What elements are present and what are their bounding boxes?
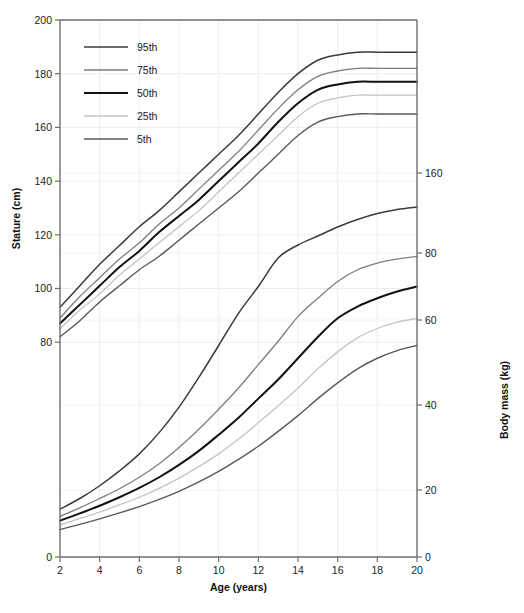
tick-label-right: 160 bbox=[425, 167, 443, 179]
tick-label-left: 140 bbox=[34, 175, 52, 187]
tick-label-right: 20 bbox=[425, 484, 437, 496]
tick-label-bottom: 2 bbox=[57, 564, 63, 576]
tick-label-right: 40 bbox=[425, 399, 437, 411]
tick-label-left: 0 bbox=[46, 551, 52, 563]
tick-label-left: 80 bbox=[40, 336, 52, 348]
tick-label-bottom: 10 bbox=[213, 564, 225, 576]
tick-label-bottom: 4 bbox=[97, 564, 103, 576]
legend-label-50th: 50th bbox=[137, 87, 158, 99]
axis-title-right: Body mass (kg) bbox=[498, 361, 510, 439]
tick-label-bottom: 14 bbox=[292, 564, 304, 576]
tick-label-left: 160 bbox=[34, 121, 52, 133]
legend-label-75th: 75th bbox=[137, 64, 158, 76]
legend-label-95th: 95th bbox=[137, 41, 158, 53]
tick-label-left: 200 bbox=[34, 14, 52, 26]
axis-title-bottom: Age (years) bbox=[210, 581, 267, 593]
tick-label-bottom: 18 bbox=[371, 564, 383, 576]
tick-label-bottom: 6 bbox=[136, 564, 142, 576]
legend-label-25th: 25th bbox=[137, 110, 158, 122]
tick-label-bottom: 20 bbox=[411, 564, 423, 576]
chart-canvas: 0801001201401601802002040608016002468101… bbox=[0, 0, 524, 613]
tick-label-bottom: 16 bbox=[332, 564, 344, 576]
tick-label-left: 100 bbox=[34, 282, 52, 294]
growth-chart-figure: 0801001201401601802002040608016002468101… bbox=[0, 0, 524, 613]
tick-label-left: 180 bbox=[34, 68, 52, 80]
tick-label-right: 0 bbox=[425, 551, 431, 563]
tick-label-bottom: 12 bbox=[252, 564, 264, 576]
tick-label-right: 80 bbox=[425, 247, 437, 259]
tick-label-right: 60 bbox=[425, 314, 437, 326]
tick-label-left: 120 bbox=[34, 229, 52, 241]
legend-label-5th: 5th bbox=[137, 133, 152, 145]
tick-label-bottom: 8 bbox=[176, 564, 182, 576]
axis-title-left: Stature (cm) bbox=[10, 188, 22, 249]
